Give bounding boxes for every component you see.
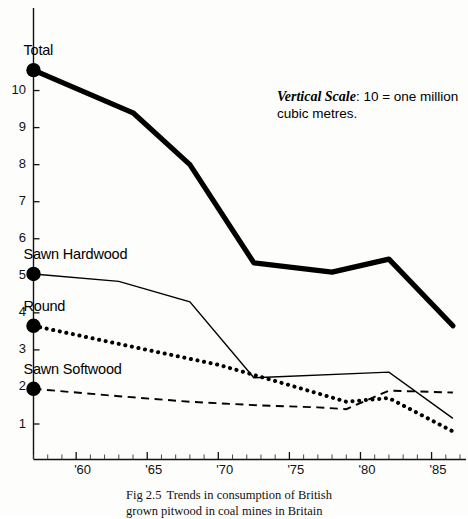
series-line [34,274,453,418]
x-tick-label: '80 [358,462,375,477]
x-tick-label: '65 [145,462,162,477]
y-tick-label: 4 [0,304,26,319]
series-label-sawn-hardwood: Sawn Hardwood [24,246,128,262]
y-tick-label: 8 [0,156,26,171]
y-tick-label: 1 [0,416,26,431]
y-tick-label: 2 [0,378,26,393]
y-tick-label: 10 [0,82,26,97]
series-start-marker [26,319,40,333]
caption-line1: Trends in consumption of British [166,488,332,502]
y-tick-label: 3 [0,341,26,356]
series-label-sawn-softwood: Sawn Softwood [24,361,122,377]
series-label-round: Round [24,298,66,314]
vertical-scale-rest: : 10 = one million [356,89,458,104]
series-line [34,389,453,409]
series-start-marker [26,382,40,396]
series-line [34,326,453,432]
series-start-marker [26,267,40,281]
series-label-total: Total [24,42,54,58]
vertical-scale-line2: cubic metres. [277,106,357,121]
y-tick-label: 9 [0,119,26,134]
x-tick-label: '70 [216,462,233,477]
x-axis-minor-ticks [34,455,461,460]
x-tick-label: '60 [74,462,91,477]
vertical-scale-emphasis: Vertical Scale [277,89,356,104]
x-tick-label: '85 [430,462,447,477]
y-tick-label: 6 [0,230,26,245]
series-start-marker [26,63,40,77]
caption-number: Fig 2.5 [126,488,161,502]
figure-caption: Fig 2.5Trends in consumption of British … [126,487,456,519]
x-tick-label: '75 [287,462,304,477]
y-tick-label: 5 [0,267,26,282]
y-tick-label: 7 [0,193,26,208]
vertical-scale-note: Vertical Scale: 10 = one million cubic m… [277,88,467,123]
x-axis-major-ticks [76,452,431,460]
caption-line2: grown pitwood in coal mines in Britain [126,504,323,518]
